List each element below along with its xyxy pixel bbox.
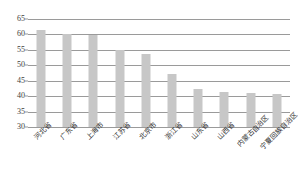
bar[interactable] [246,93,255,127]
bar-slot [54,19,80,127]
bar[interactable] [89,35,98,127]
y-tick-label-35: 35 [17,108,25,116]
x-label-slot: 宁夏回族自治区 [264,127,290,190]
bar-slot [159,19,185,127]
x-label-slot: 河北省 [28,127,54,190]
x-label-slot: 广东省 [54,127,80,190]
x-label-slot: 北京市 [133,127,159,190]
plot-area: 3035404550556065 [28,19,290,127]
y-tick-label-40: 40 [17,92,25,100]
x-label-slot: 浙江省 [159,127,185,190]
y-tick-label-65: 65 [17,15,25,23]
x-label-slot: 山东省 [185,127,211,190]
bar[interactable] [168,74,177,127]
y-tick-label-45: 45 [17,77,25,85]
bar-slot [264,19,290,127]
bar-slot [107,19,133,127]
bar[interactable] [272,94,281,127]
y-tick-label-50: 50 [17,61,25,69]
bar[interactable] [194,89,203,127]
bar[interactable] [115,50,124,127]
bar-slot [185,19,211,127]
x-label-slot: 内蒙古自治区 [238,127,264,190]
bar-slot [133,19,159,127]
bar-slot [238,19,264,127]
bars-group [28,19,290,127]
y-tick-label-55: 55 [17,46,25,54]
x-axis-labels: 河北省广东省上海市江苏省北京市浙江省山东省山西省内蒙古自治区宁夏回族自治区 [28,127,290,190]
bar-slot [211,19,237,127]
bar[interactable] [220,92,229,127]
x-label-slot: 山西省 [211,127,237,190]
y-tick-label-30: 30 [17,123,25,131]
bar[interactable] [37,30,46,127]
bar-chart: 3035404550556065 河北省广东省上海市江苏省北京市浙江省山东省山西… [0,0,298,190]
y-tick-label-60: 60 [17,30,25,38]
bar[interactable] [63,34,72,127]
bar[interactable] [141,54,150,127]
x-label-slot: 上海市 [80,127,106,190]
bar-slot [80,19,106,127]
x-label-slot: 江苏省 [107,127,133,190]
bar-slot [28,19,54,127]
